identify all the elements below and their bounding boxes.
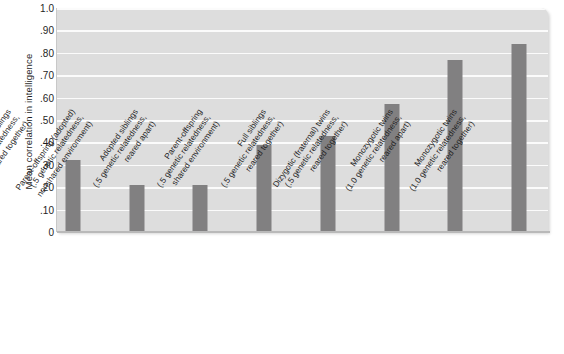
x-axis-category-labels: Adoptive siblings(0 genetic relatedness,… xyxy=(0,234,564,354)
y-axis-tick-label: .90 xyxy=(14,25,54,36)
y-axis-tick-label: .60 xyxy=(14,92,54,103)
bar-chart-figure: Mean correlation in intelligence 0.10.20… xyxy=(0,0,564,354)
y-axis-tick-label: 1.0 xyxy=(14,3,54,14)
y-axis-tick-label: .70 xyxy=(14,70,54,81)
bar xyxy=(511,44,526,232)
y-axis-tick-label: .80 xyxy=(14,47,54,58)
